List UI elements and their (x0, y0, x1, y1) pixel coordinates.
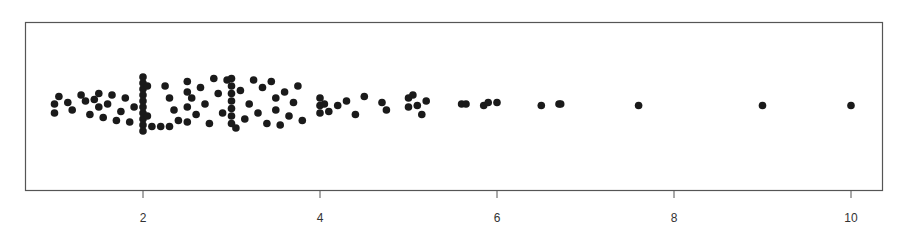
data-point (197, 84, 205, 92)
data-point (214, 90, 222, 98)
data-point (422, 97, 430, 105)
data-point (166, 123, 174, 131)
data-point (219, 109, 227, 117)
data-point (383, 106, 391, 114)
data-point (847, 102, 855, 110)
data-point (139, 127, 147, 135)
data-point (316, 109, 324, 117)
data-point (170, 106, 178, 114)
data-point (148, 123, 156, 131)
x-tick-label: 2 (140, 211, 147, 225)
data-point (210, 75, 218, 83)
x-tick-label: 8 (671, 211, 678, 225)
data-point (188, 94, 196, 102)
data-point (55, 93, 63, 101)
data-point (86, 111, 94, 119)
data-point (493, 99, 501, 107)
data-point (64, 99, 72, 107)
data-point (228, 90, 236, 98)
data-point (192, 111, 200, 119)
data-point (184, 103, 192, 111)
x-tick-label: 6 (494, 211, 501, 225)
data-point (232, 124, 240, 132)
data-point (228, 82, 236, 90)
data-point (108, 91, 116, 99)
data-point (130, 103, 138, 111)
data-point (409, 91, 417, 99)
data-point (538, 102, 546, 110)
x-tick-label: 4 (317, 211, 324, 225)
data-point (361, 93, 369, 101)
data-point (759, 102, 767, 110)
data-point (228, 112, 236, 120)
data-point (241, 115, 249, 123)
data-point (95, 90, 103, 98)
x-axis: 246810 (140, 191, 858, 225)
data-point (82, 97, 90, 105)
data-point (405, 103, 413, 111)
data-point (299, 117, 307, 125)
x-tick-label: 10 (844, 211, 858, 225)
data-point (166, 94, 174, 102)
data-point (161, 82, 169, 90)
data-point (113, 117, 121, 125)
data-point (157, 123, 165, 131)
data-point (352, 111, 360, 119)
data-point (104, 100, 112, 108)
data-point (294, 82, 302, 90)
data-point (245, 100, 253, 108)
data-point (117, 108, 125, 116)
data-point (68, 106, 76, 114)
data-point (462, 100, 470, 108)
data-point (184, 118, 192, 126)
data-point (126, 118, 134, 126)
data-point (418, 111, 426, 119)
data-point (175, 117, 183, 125)
data-point (272, 94, 280, 102)
data-point (254, 109, 262, 117)
data-point (144, 112, 152, 120)
data-point (201, 100, 209, 108)
data-point (414, 102, 422, 110)
data-point (290, 99, 298, 107)
data-point (99, 114, 107, 122)
data-point (237, 87, 245, 95)
data-point (484, 99, 492, 107)
plot-frame (26, 23, 883, 191)
data-point (281, 88, 289, 96)
data-point (276, 121, 284, 129)
strip-chart: 246810 (0, 0, 908, 242)
data-point (228, 105, 236, 113)
data-point (263, 120, 271, 128)
data-point (51, 100, 59, 108)
data-point (51, 109, 59, 117)
data-point (268, 78, 276, 86)
data-point (325, 108, 333, 116)
data-point (122, 94, 130, 102)
data-point (343, 97, 351, 105)
data-point (557, 100, 565, 108)
data-point (321, 100, 329, 108)
data-point (184, 78, 192, 86)
data-point (378, 99, 386, 107)
data-point (228, 75, 236, 83)
data-point (228, 97, 236, 105)
data-point (144, 82, 152, 90)
data-point (272, 106, 280, 114)
data-point (334, 102, 342, 110)
data-point (95, 103, 103, 111)
data-point (91, 96, 99, 104)
data-point (250, 76, 258, 84)
data-point (635, 102, 643, 110)
data-point (206, 120, 214, 128)
data-point (259, 84, 267, 92)
data-point (285, 112, 293, 120)
